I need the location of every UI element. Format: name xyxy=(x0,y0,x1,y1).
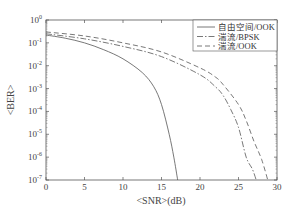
legend-label: 自由空间/OOK xyxy=(218,22,276,32)
x-axis-label: <SNR>(dB) xyxy=(136,195,185,207)
x-tick-label: 0 xyxy=(44,182,49,192)
y-tick-label: 10-6 xyxy=(28,151,42,162)
x-tick-label: 20 xyxy=(196,182,206,192)
y-axis-label: <BER> xyxy=(5,84,16,115)
x-tick-label: 5 xyxy=(82,182,87,192)
x-tick-label: 25 xyxy=(234,182,244,192)
ber-vs-snr-chart: 051015202530 10010-110-210-310-410-510-6… xyxy=(0,0,299,210)
y-tick-label: 10-3 xyxy=(28,83,42,94)
y-tick-label: 10-4 xyxy=(28,105,42,116)
y-tick-label: 10-1 xyxy=(28,37,42,48)
legend: 自由空间/OOK湍流/BPSK湍流/OOK xyxy=(193,20,277,51)
x-tick-label: 10 xyxy=(119,182,129,192)
y-tick-label: 10-7 xyxy=(28,174,42,185)
legend-label: 湍流/BPSK xyxy=(218,32,260,42)
x-tick-label: 15 xyxy=(157,182,167,192)
y-tick-label: 100 xyxy=(30,14,42,25)
legend-label: 湍流/OOK xyxy=(218,41,258,51)
x-tick-label: 30 xyxy=(273,182,283,192)
y-tick-label: 10-2 xyxy=(28,60,42,71)
y-tick-label: 10-5 xyxy=(28,128,42,139)
